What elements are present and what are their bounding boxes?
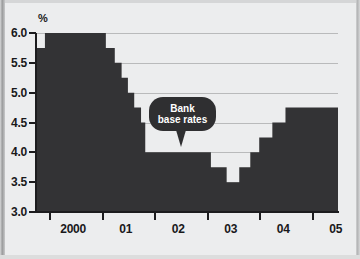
y-axis-tick-label: 4.0 [0,145,27,159]
x-axis-line [35,211,339,213]
y-axis-tick [29,211,36,213]
chart-figure: % 6.05.55.04.54.03.53.0 20000102030405 B… [0,0,360,259]
x-axis-tick-label: 05 [314,222,358,236]
x-axis-tick [207,213,209,220]
y-axis-tick [29,151,36,153]
x-axis-tick-label: 02 [156,222,200,236]
frame-top-edge [0,0,360,3]
y-axis-tick-label: 3.5 [0,175,27,189]
callout-line-1: Bank [153,103,212,114]
x-axis-tick-label: 01 [104,222,148,236]
y-axis-tick-label: 4.5 [0,116,27,130]
x-axis-tick [154,213,156,220]
y-axis-tick-label: 3.0 [0,205,27,219]
x-axis-tick [102,213,104,220]
frame-bottom-edge [0,255,360,259]
y-axis-tick [29,62,36,64]
y-axis-tick [29,122,36,124]
callout-body: Bank base rates [149,97,216,131]
x-axis-tick-label: 2000 [51,222,95,236]
x-axis-tick-label: 03 [209,222,253,236]
y-axis-tick [29,181,36,183]
y-axis-tick-label: 5.0 [0,86,27,100]
y-axis-unit-label: % [38,12,48,24]
x-axis-tick [259,213,261,220]
y-axis-tick-label: 6.0 [0,26,27,40]
y-axis-tick-label: 5.5 [0,56,27,70]
callout-tail [176,130,186,147]
x-axis-tick-label: 04 [261,222,305,236]
y-axis-tick [29,32,36,34]
callout-line-2: base rates [153,114,212,125]
y-axis-tick [29,92,36,94]
x-axis-tick [312,213,314,220]
frame-right-edge [356,0,360,259]
x-axis-tick [49,213,51,220]
bank-base-rates-callout: Bank base rates [149,97,216,131]
